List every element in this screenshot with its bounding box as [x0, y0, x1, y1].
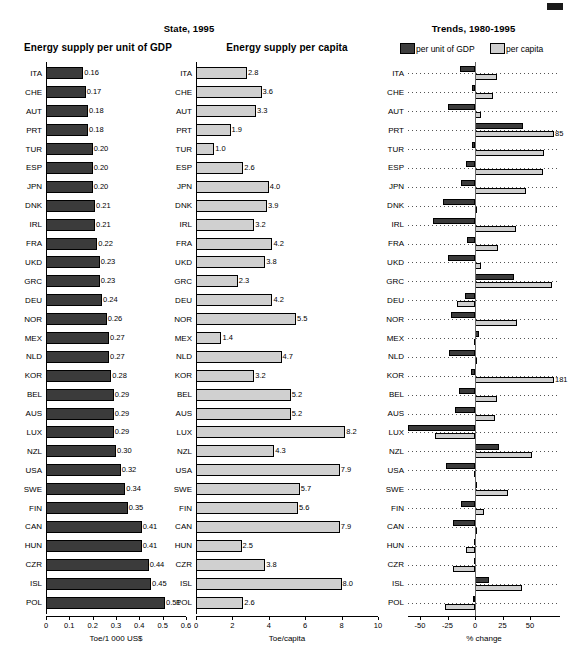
trend-bar-usa [446, 463, 475, 469]
trend-bar-nor [451, 312, 475, 318]
row-label: SWE [376, 485, 404, 494]
trend-bar-jpn [475, 188, 526, 194]
trend-bar-ita [460, 66, 475, 72]
trend-bar-tur [475, 150, 544, 156]
x-tick-label: 0 [461, 621, 489, 630]
trend-bar-che [475, 93, 493, 99]
trend-bar-ita [475, 74, 497, 80]
trend-bar-isl [475, 585, 522, 591]
trend-bar-aus [455, 407, 475, 413]
trend-bar-prt [475, 123, 523, 129]
grid-dotted-row [408, 546, 560, 547]
row-label: TUR [376, 145, 404, 154]
row-label: GRC [376, 277, 404, 286]
x-tick [420, 617, 421, 620]
trend-bar-pol [445, 604, 475, 610]
grid-dotted-row [408, 432, 560, 433]
row-label: BEL [376, 390, 404, 399]
figure-root: State, 1995 Trends, 1980-1995 Energy sup… [0, 0, 569, 662]
row-label: POL [376, 598, 404, 607]
x-tick-label: 50 [516, 621, 544, 630]
trend-bar-irl [433, 218, 475, 224]
grid-dotted-row [408, 527, 560, 528]
row-label: NZL [376, 447, 404, 456]
trend-bar-bel [475, 396, 497, 402]
row-label: FRA [376, 239, 404, 248]
row-label: FIN [376, 504, 404, 513]
trend-bar-czr [453, 566, 475, 572]
trend-bar-nor [475, 320, 517, 326]
x-tick-label: -50 [406, 621, 434, 630]
trend-bar-nzl [475, 444, 499, 450]
trend-bar-deu [465, 293, 475, 299]
trend-bar-esp [466, 161, 475, 167]
trend-bar-aut [448, 104, 476, 110]
zero-line [475, 62, 476, 616]
trend-bar-lux [408, 425, 475, 431]
trend-bar-swe [475, 490, 508, 496]
trend-bar-can [453, 520, 475, 526]
row-label: PRT [376, 126, 404, 135]
row-label: DNK [376, 201, 404, 210]
trend-bar-prt [475, 131, 554, 137]
row-label: NOR [376, 315, 404, 324]
x-axis-line [408, 616, 560, 617]
row-label: USA [376, 466, 404, 475]
trend-bar-nzl [475, 452, 532, 458]
grid-dotted-row [408, 262, 560, 263]
row-label: DEU [376, 296, 404, 305]
grid-dotted-row [408, 603, 560, 604]
trend-bar-grc [475, 282, 552, 288]
trend-bar-fin [475, 509, 484, 515]
trend-bar-isl [475, 577, 489, 583]
trend-bar-aus [475, 415, 495, 421]
row-label: IRL [376, 220, 404, 229]
x-tick [530, 617, 531, 620]
trend-bar-ukd [448, 255, 476, 261]
trend-bar-lux [435, 433, 475, 439]
grid-dotted-row [408, 470, 560, 471]
trend-bar-esp [475, 169, 543, 175]
grid-dotted-row [408, 338, 560, 339]
row-label: ITA [376, 69, 404, 78]
trend-bar-fra [467, 237, 475, 243]
trend-bar-hun [466, 547, 475, 553]
trend-bar-fin [461, 501, 475, 507]
grid-dotted-row [408, 111, 560, 112]
trend-bar-jpn [461, 180, 475, 186]
x-tick-label: -25 [434, 621, 462, 630]
grid-dotted-row [408, 357, 560, 358]
trend-bar-irl [475, 226, 516, 232]
row-label: NLD [376, 352, 404, 361]
x-tick-label: 25 [489, 621, 517, 630]
row-label: MEX [376, 334, 404, 343]
trend-value-label: 85 [555, 130, 563, 138]
row-label: CZR [376, 560, 404, 569]
trend-bar-grc [475, 274, 514, 280]
x-tick [475, 617, 476, 620]
row-label: KOR [376, 371, 404, 380]
grid-dotted-row [408, 508, 560, 509]
row-label: ESP [376, 163, 404, 172]
row-label: CAN [376, 522, 404, 531]
x-tick [448, 617, 449, 620]
row-label: AUT [376, 107, 404, 116]
trend-bar-deu [457, 301, 475, 307]
grid-dotted-row [408, 206, 560, 207]
row-label: AUS [376, 409, 404, 418]
trend-value-label: 181 [555, 376, 568, 384]
trend-bar-fra [475, 245, 498, 251]
row-label: CHE [376, 88, 404, 97]
row-label: HUN [376, 541, 404, 550]
panel-trends: ITACHEAUTPRT85TURESPJPNDNKIRLFRAUKDGRCDE… [0, 0, 569, 662]
row-label: ISL [376, 579, 404, 588]
trend-bar-nld [449, 350, 475, 356]
trend-bar-kor [475, 377, 554, 383]
grid-dotted-row [408, 300, 560, 301]
trend-bar-dnk [443, 199, 475, 205]
trend-bar-bel [459, 388, 476, 394]
x-tick [503, 617, 504, 620]
row-label: LUX [376, 428, 404, 437]
grid-dotted-row [408, 565, 560, 566]
row-label: UKD [376, 258, 404, 267]
